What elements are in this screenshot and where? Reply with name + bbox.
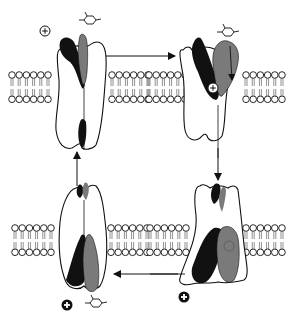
substrate-molecule-inside-icon xyxy=(85,295,107,307)
cation-ion-icon xyxy=(40,26,50,36)
transporter-bottom-left xyxy=(59,183,107,311)
substrate-molecule-icon xyxy=(217,24,239,36)
transporter-bottom-right xyxy=(150,184,247,303)
transporter-top-left xyxy=(40,12,106,150)
cation-ion-bound-icon xyxy=(208,83,218,93)
cation-ion-inside-icon xyxy=(62,300,73,311)
transporter-top-right xyxy=(180,24,239,158)
cation-ion-released-icon xyxy=(179,292,190,303)
transporter-cycle-diagram: Transporter alternating-access cycle (sy… xyxy=(0,0,299,323)
membrane-top xyxy=(9,72,286,103)
substrate-molecule-icon xyxy=(79,12,101,24)
